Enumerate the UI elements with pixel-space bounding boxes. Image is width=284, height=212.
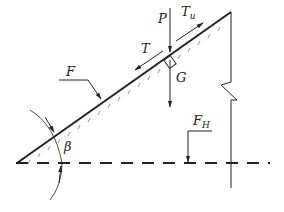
label-fh-main: F	[193, 113, 202, 128]
diagram-canvas	[0, 0, 284, 212]
label-tu: Tu	[181, 5, 195, 21]
label-p: P	[158, 12, 167, 25]
angle-beta-arc	[30, 110, 62, 200]
label-t: T	[141, 42, 150, 55]
label-tu-main: T	[181, 4, 190, 19]
label-f: F	[66, 65, 75, 78]
label-g: G	[176, 71, 186, 84]
force-fh-leader	[188, 131, 212, 162]
slope-line	[17, 12, 231, 163]
slope-force-diagram: P Tu T G F FH β	[0, 0, 284, 212]
label-fh: FH	[193, 114, 210, 130]
label-tu-sub: u	[190, 11, 196, 21]
label-fh-sub: H	[202, 120, 210, 130]
vertical-wall-line	[221, 12, 237, 188]
force-tu-arrow	[176, 23, 203, 41]
label-beta: β	[64, 140, 72, 153]
force-f-leader	[59, 80, 101, 99]
